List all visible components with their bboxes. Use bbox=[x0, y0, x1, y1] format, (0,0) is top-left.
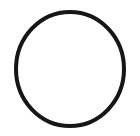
circle-drawing bbox=[0, 0, 140, 136]
figure-background bbox=[0, 0, 140, 136]
figure-canvas bbox=[0, 0, 140, 136]
